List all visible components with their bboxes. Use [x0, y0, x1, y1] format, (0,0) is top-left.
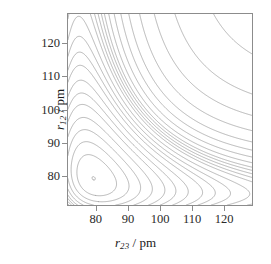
y-axis-title-separator: /	[52, 106, 67, 116]
x-axis-tick	[128, 206, 129, 211]
contour-line	[214, 14, 252, 54]
y-axis-title-variable: r	[52, 125, 67, 130]
x-axis-tick-label: 80	[90, 213, 103, 226]
x-axis-title: r23 / pm	[0, 236, 271, 251]
x-axis-tick-label: 110	[183, 213, 201, 226]
x-axis-tick	[224, 206, 225, 211]
contour-figure: 80 90 100 110 120 80 90 100 110 120 r23 …	[0, 0, 271, 264]
x-axis-tick-label: 120	[215, 213, 234, 226]
x-axis-tick-label: 90	[122, 213, 135, 226]
contour-line	[248, 204, 252, 205]
x-axis-tick	[96, 206, 97, 211]
x-axis-tick	[192, 206, 193, 211]
y-axis-title-unit: pm	[52, 89, 67, 106]
x-axis-tick-label: 100	[151, 213, 170, 226]
x-axis-title-unit: pm	[139, 235, 156, 250]
x-axis-tick	[160, 206, 161, 211]
y-axis-title: r12 / pm	[0, 13, 157, 206]
x-axis-title-subscript: 23	[120, 241, 129, 251]
y-axis-title-subscript: 12	[58, 116, 68, 125]
x-axis-title-separator: /	[129, 235, 139, 250]
contour-line	[175, 14, 252, 94]
